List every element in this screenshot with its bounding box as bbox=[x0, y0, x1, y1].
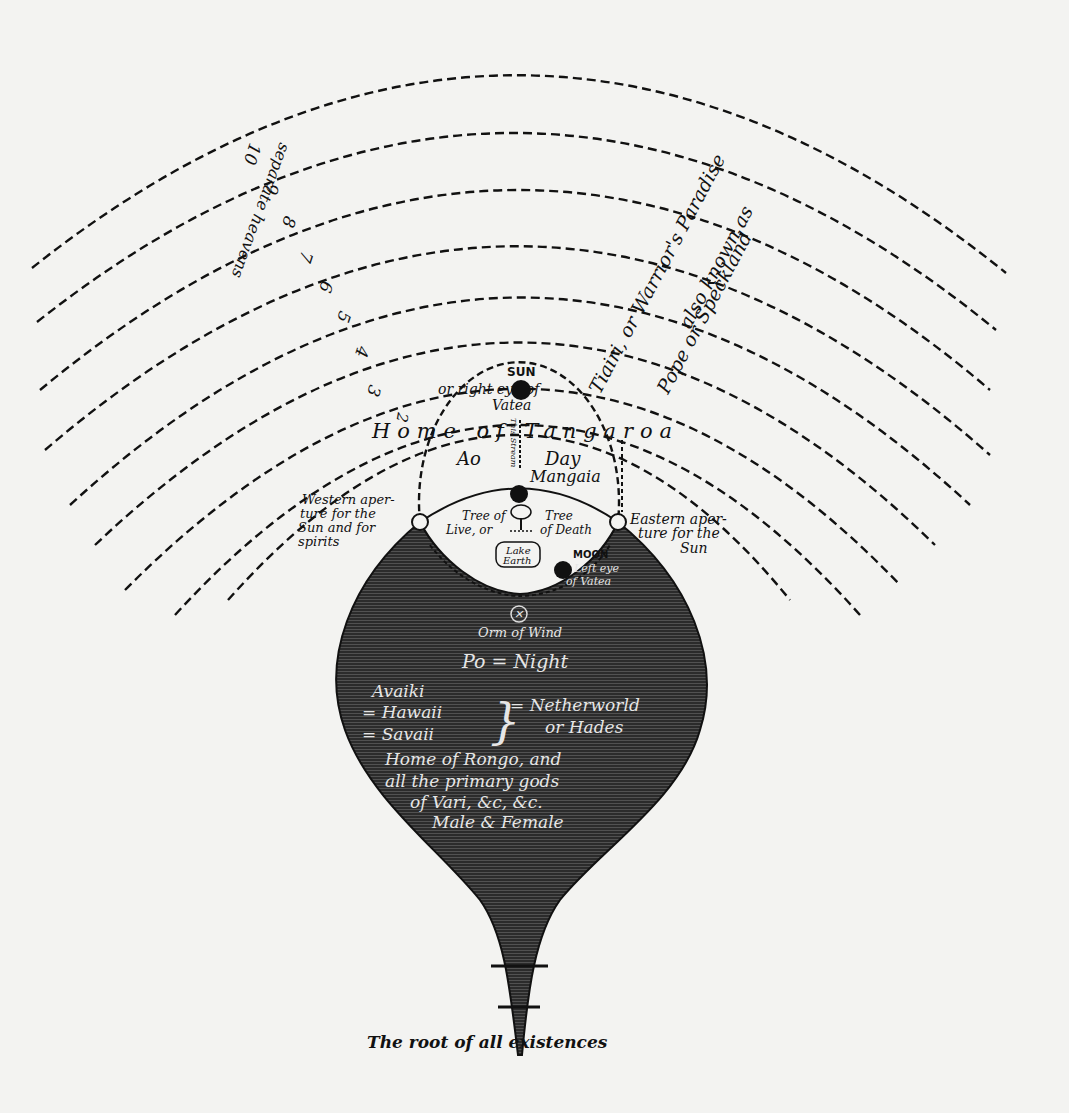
heaven-arc-9 bbox=[37, 133, 996, 330]
avaiki-label: Avaiki bbox=[370, 681, 425, 701]
tree-life-1: Tree of bbox=[462, 509, 508, 523]
lake-label-2: Earth bbox=[502, 555, 532, 566]
svg-text:ture for the: ture for the bbox=[638, 525, 720, 541]
mangaia-label: Mangaia bbox=[529, 467, 601, 486]
heaven-arc-8 bbox=[40, 190, 990, 390]
sun-label: SUN bbox=[507, 365, 535, 379]
tree-death-2: of Death bbox=[540, 523, 592, 537]
western-aperture bbox=[412, 514, 428, 530]
rongo-line4: Male & Female bbox=[431, 812, 564, 832]
moon-label: MOON bbox=[573, 549, 608, 560]
tree-life-2: Live, or bbox=[445, 523, 494, 537]
western-aperture-label: Western aper- ture for the Sun and for s… bbox=[298, 492, 395, 549]
tree-death-1: Tree bbox=[545, 509, 573, 523]
heaven-number-6: 6 bbox=[315, 279, 337, 296]
svg-text:spirits: spirits bbox=[298, 534, 340, 549]
hawaii-label: = Hawaii bbox=[362, 702, 442, 722]
moon-note-2: of Vatea bbox=[566, 575, 611, 588]
heaven-number-3: 3 bbox=[363, 383, 385, 399]
stream-label: This Stream bbox=[509, 418, 518, 468]
svg-text:✕: ✕ bbox=[514, 608, 524, 621]
heaven-number-10: 10 bbox=[239, 141, 265, 168]
savaii-label: = Savaii bbox=[362, 724, 434, 744]
heaven-number-5: 5 bbox=[333, 309, 355, 325]
sun-note-1: or right eye of bbox=[438, 381, 542, 397]
rongo-line1: Home of Rongo, and bbox=[384, 749, 562, 769]
ao-label: Ao bbox=[455, 448, 481, 469]
rongo-line2: all the primary gods bbox=[385, 771, 559, 791]
caption: The root of all existences bbox=[367, 1032, 608, 1052]
heaven-number-8: 8 bbox=[278, 214, 300, 231]
heaven-number-7: 7 bbox=[295, 249, 317, 266]
wind-label: Orm of Wind bbox=[478, 625, 562, 640]
cosmology-diagram: ✕ 3 4 5 6 7 8 9 10 separate heavens Tiai… bbox=[0, 0, 1069, 1113]
svg-text:Sun and for: Sun and for bbox=[298, 520, 376, 535]
home-of-tangaroa-label: Home of Tangaroa bbox=[371, 419, 672, 443]
heaven-arc-10 bbox=[32, 75, 1006, 273]
sun-note-2: Vatea bbox=[492, 397, 531, 413]
moon-note-1: Left eye bbox=[573, 562, 620, 575]
day-label: Day bbox=[544, 448, 581, 469]
rongo-line3: of Vari, &c, &c. bbox=[410, 792, 543, 812]
po-night-label: Po = Night bbox=[461, 650, 569, 672]
hades-label: or Hades bbox=[545, 717, 624, 737]
eastern-aperture bbox=[610, 514, 626, 530]
mangaia-dot-icon bbox=[510, 485, 528, 503]
heaven-number-4: 4 bbox=[351, 343, 374, 360]
svg-text:Sun: Sun bbox=[680, 540, 708, 556]
netherworld-label: = Netherworld bbox=[510, 695, 640, 715]
svg-text:ture for the: ture for the bbox=[300, 506, 376, 521]
svg-text:Western aper-: Western aper- bbox=[302, 492, 395, 507]
heaven-numbers: 3 4 5 6 7 8 9 10 bbox=[239, 141, 385, 399]
